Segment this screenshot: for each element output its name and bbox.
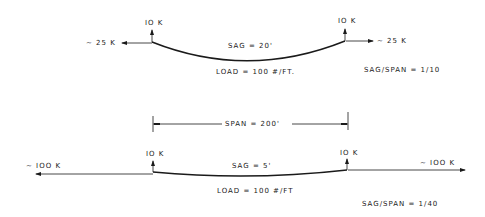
span-label: SPAN = 200' <box>225 120 280 128</box>
top-ratio-label: SAG/SPAN = 1/10 <box>364 66 440 74</box>
bottom-left-force-label: ~ IOO K <box>26 162 61 170</box>
top-left-force-label: ~ 25 K <box>86 39 116 47</box>
bottom-ratio-label: SAG/SPAN = 1/40 <box>362 200 438 208</box>
top-load-label: LOAD = 100 #/FT. <box>216 68 295 76</box>
bottom-right-force-label: ~ IOO K <box>420 159 455 167</box>
bottom-cable-curve <box>153 170 347 176</box>
top-left-reaction-label: IO K <box>145 19 163 27</box>
top-right-reaction-label: IO K <box>338 17 356 25</box>
bottom-load-label: LOAD = 100 #/FT <box>217 187 294 195</box>
top-sag-label: SAG = 20' <box>228 42 273 50</box>
top-right-force-label: ~ 25 K <box>377 37 407 45</box>
bottom-left-reaction-label: IO K <box>146 150 164 158</box>
cable-sag-diagram <box>0 0 485 217</box>
bottom-right-reaction-label: IO K <box>340 149 358 157</box>
bottom-sag-label: SAG = 5' <box>232 162 271 170</box>
